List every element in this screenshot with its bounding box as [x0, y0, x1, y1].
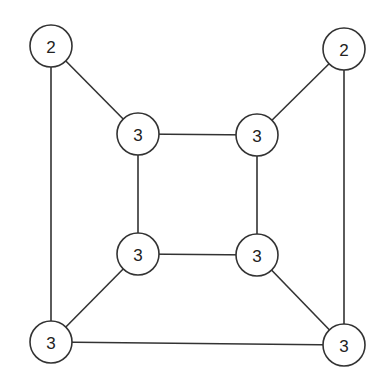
edges-layer — [51, 46, 344, 345]
node-label: 3 — [339, 337, 348, 356]
node-label: 3 — [133, 246, 142, 265]
node-inner-bl: 3 — [117, 233, 159, 275]
node-label: 3 — [133, 126, 142, 145]
node-label: 3 — [252, 127, 261, 146]
node-label: 2 — [339, 41, 348, 60]
node-inner-tl: 3 — [117, 113, 159, 155]
node-outer-tl: 2 — [30, 25, 72, 67]
node-label: 3 — [252, 247, 261, 266]
node-inner-tr: 3 — [236, 114, 278, 156]
node-outer-bl: 3 — [30, 321, 72, 363]
node-label: 2 — [46, 38, 55, 57]
edge-outer-bl-outer-br — [51, 342, 344, 345]
node-outer-br: 3 — [323, 324, 365, 366]
node-inner-br: 3 — [236, 234, 278, 276]
graph-diagram: 22333333 — [0, 0, 389, 388]
node-outer-tr: 2 — [323, 28, 365, 70]
node-label: 3 — [46, 334, 55, 353]
